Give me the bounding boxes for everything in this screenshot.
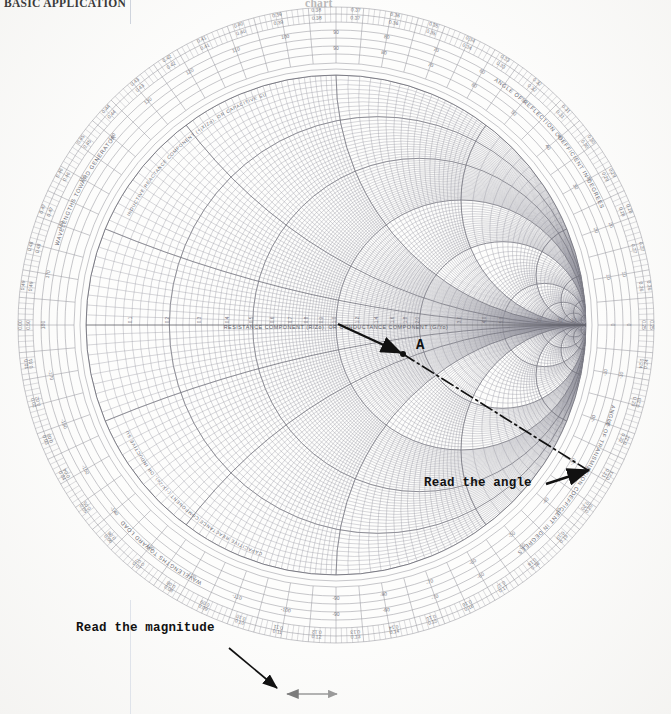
svg-text:60: 60 <box>471 81 479 89</box>
svg-text:-70: -70 <box>425 577 434 585</box>
svg-text:0.1: 0.1 <box>128 316 133 323</box>
svg-text:170: 170 <box>44 269 51 278</box>
caption-wavelengths-toward-generator: WAVELENGTHS TOWARD GENERATOR <box>54 133 118 246</box>
svg-text:-100: -100 <box>280 606 291 614</box>
svg-text:-10: -10 <box>617 371 624 379</box>
svg-text:140: 140 <box>107 131 117 141</box>
svg-text:20: 20 <box>593 227 601 234</box>
svg-text:0.12: 0.12 <box>311 629 321 636</box>
svg-text:120: 120 <box>184 66 194 75</box>
svg-text:0.14: 0.14 <box>388 624 399 632</box>
read-angle-label: Read the angle <box>424 476 532 490</box>
svg-text:2.0: 2.0 <box>415 316 420 323</box>
svg-text:0.48: 0.48 <box>34 243 42 254</box>
svg-text:0.26: 0.26 <box>638 281 645 292</box>
svg-text:60: 60 <box>479 67 487 75</box>
svg-text:0.47: 0.47 <box>45 206 54 217</box>
svg-text:0.48: 0.48 <box>26 241 34 252</box>
svg-text:-60: -60 <box>476 571 485 580</box>
svg-text:20: 20 <box>608 221 616 228</box>
svg-text:0.13: 0.13 <box>350 629 360 636</box>
svg-text:0: 0 <box>610 324 616 327</box>
svg-text:-20: -20 <box>588 414 596 423</box>
svg-text:90: 90 <box>333 29 339 35</box>
caption-inductive-reactance: INDUCTIVE REACTANCE COMPONENT (+jX/Zo), … <box>16 6 267 217</box>
svg-text:0.28: 0.28 <box>618 206 627 217</box>
smith-chart-graphic: RESISTANCE COMPONENT (R/Zo), OR CONDUCTA… <box>16 6 656 646</box>
svg-text:0.26: 0.26 <box>646 280 653 291</box>
svg-text:-90: -90 <box>332 595 339 601</box>
svg-text:0.36: 0.36 <box>388 19 399 27</box>
svg-text:0.25: 0.25 <box>641 320 647 330</box>
svg-text:180: 180 <box>40 321 46 330</box>
svg-text:80: 80 <box>381 49 388 56</box>
svg-text:110: 110 <box>231 45 241 53</box>
svg-text:0.49: 0.49 <box>19 280 26 291</box>
axis-caption: RESISTANCE COMPONENT (R/Zo), OR CONDUCTA… <box>224 324 449 330</box>
page-canvas: BASIC APPLICATION chart <box>0 0 671 714</box>
svg-text:0.35: 0.35 <box>426 28 437 37</box>
svg-text:0.49: 0.49 <box>27 281 34 292</box>
svg-text:0.27: 0.27 <box>638 241 646 252</box>
svg-text:0.40: 0.40 <box>235 28 246 37</box>
svg-text:0.4: 0.4 <box>225 316 230 323</box>
svg-text:0.50: 0.50 <box>25 320 31 330</box>
svg-text:-40: -40 <box>541 496 550 506</box>
svg-text:4.0: 4.0 <box>482 316 487 323</box>
read-magnitude-label: Read the magnitude <box>76 621 215 635</box>
svg-text:10: 10 <box>537 317 542 323</box>
svg-text:0.8: 0.8 <box>304 316 309 323</box>
svg-text:0.36: 0.36 <box>390 11 401 19</box>
svg-text:70: 70 <box>433 46 440 54</box>
svg-text:0.37: 0.37 <box>350 14 360 21</box>
svg-text:0: 0 <box>626 324 632 327</box>
svg-text:20: 20 <box>558 317 563 323</box>
svg-text:0.25: 0.25 <box>649 320 655 330</box>
svg-text:0.27: 0.27 <box>630 243 638 254</box>
svg-text:30: 30 <box>572 183 580 191</box>
svg-text:0.6: 0.6 <box>270 316 275 323</box>
svg-text:-140: -140 <box>109 505 120 517</box>
svg-text:-10: -10 <box>601 368 608 376</box>
svg-text:-60: -60 <box>468 557 477 566</box>
svg-text:0.38: 0.38 <box>312 14 322 21</box>
svg-text:0.24: 0.24 <box>638 358 645 369</box>
svg-text:-90: -90 <box>332 611 339 617</box>
svg-text:5.0: 5.0 <box>499 316 504 323</box>
svg-text:0.2: 0.2 <box>165 316 170 323</box>
svg-text:-160: -160 <box>60 418 69 430</box>
svg-text:1.2: 1.2 <box>355 316 360 323</box>
svg-text:70: 70 <box>427 61 434 69</box>
svg-text:0.39: 0.39 <box>273 19 284 27</box>
svg-text:1.0: 1.0 <box>332 316 337 323</box>
point-a-label: A <box>416 337 424 353</box>
svg-text:1.4: 1.4 <box>374 316 379 323</box>
svg-text:-80: -80 <box>379 590 387 597</box>
caption-wtg-text: WAVELENGTHS TOWARD GENERATOR <box>54 133 118 246</box>
svg-text:0.01: 0.01 <box>27 358 34 369</box>
svg-text:90: 90 <box>333 45 339 51</box>
smith-chart: RESISTANCE COMPONENT (R/Zo), OR CONDUCTA… <box>16 6 656 646</box>
svg-text:3.0: 3.0 <box>457 316 462 323</box>
svg-text:0.02: 0.02 <box>33 396 41 407</box>
svg-text:130: 130 <box>142 95 152 105</box>
svg-text:-150: -150 <box>81 464 91 476</box>
svg-text:0.23: 0.23 <box>630 396 638 407</box>
svg-text:0.5: 0.5 <box>249 316 254 323</box>
read-magnitude-arrow <box>229 648 277 688</box>
svg-text:0.37: 0.37 <box>351 6 361 13</box>
svg-text:1.6: 1.6 <box>390 316 395 323</box>
svg-text:-30: -30 <box>568 457 577 466</box>
svg-text:0.7: 0.7 <box>288 316 293 323</box>
svg-text:0.9: 0.9 <box>319 316 324 323</box>
svg-text:50: 50 <box>572 317 577 323</box>
svg-text:80: 80 <box>384 33 391 40</box>
svg-text:0.39: 0.39 <box>271 11 282 19</box>
svg-text:-70: -70 <box>430 592 439 600</box>
svg-text:1.8: 1.8 <box>403 316 408 323</box>
svg-text:0.11: 0.11 <box>273 624 284 632</box>
svg-text:-110: -110 <box>232 592 243 601</box>
svg-text:0.38: 0.38 <box>311 6 321 13</box>
svg-text:-80: -80 <box>382 606 390 613</box>
svg-text:100: 100 <box>281 33 290 40</box>
